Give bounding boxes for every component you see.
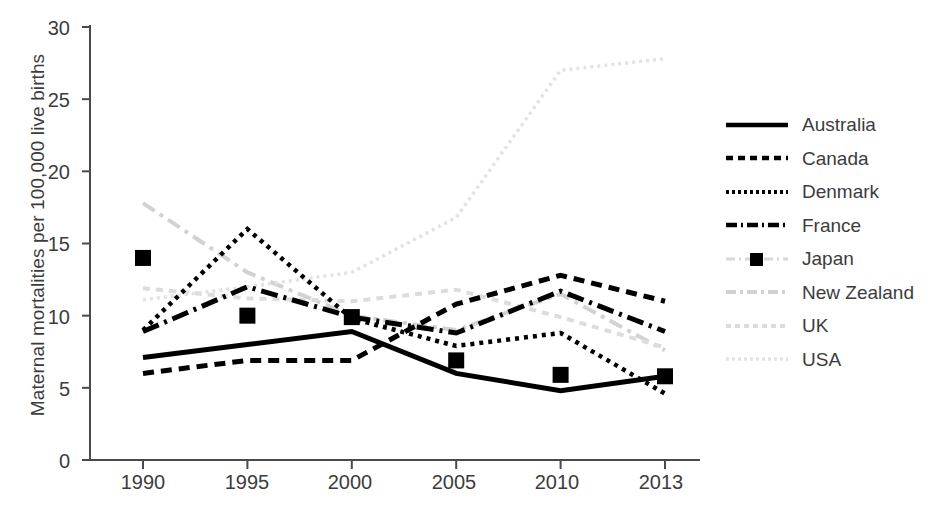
legend-item-denmark[interactable]: Denmark: [726, 175, 936, 209]
legend-swatch-france: [726, 218, 788, 232]
y-tick-marks: [82, 27, 90, 460]
series-layer: [135, 59, 673, 394]
legend-label-japan: Japan: [802, 249, 854, 268]
legend-label-usa: USA: [802, 350, 841, 369]
legend-swatch-japan: [726, 252, 788, 266]
legend-swatch-new-zealand: [726, 285, 788, 299]
series-new-zealand: [143, 203, 665, 350]
series-australia: [143, 332, 665, 391]
series-usa: [143, 59, 665, 300]
legend-item-usa[interactable]: USA: [726, 343, 936, 377]
legend-label-denmark: Denmark: [802, 182, 879, 201]
legend-label-uk: UK: [802, 316, 828, 335]
legend-item-france[interactable]: France: [726, 209, 936, 243]
legend-swatch-uk: [726, 319, 788, 333]
data-point-marker: [657, 368, 673, 384]
data-point-marker: [135, 250, 151, 266]
legend-swatch-denmark: [726, 185, 788, 199]
legend-item-uk[interactable]: UK: [726, 309, 936, 343]
legend-label-canada: Canada: [802, 149, 869, 168]
series-denmark: [143, 229, 665, 394]
data-point-marker: [239, 308, 255, 324]
series-uk: [143, 288, 665, 347]
legend-swatch-usa: [726, 352, 788, 366]
legend-swatch-australia: [726, 118, 788, 132]
x-tick-marks: [143, 460, 665, 469]
data-point-marker: [448, 352, 464, 368]
legend-item-new-zealand[interactable]: New Zealand: [726, 276, 936, 310]
legend-item-canada[interactable]: Canada: [726, 142, 936, 176]
chart-container: Maternal mortalities per 100,000 live bi…: [0, 0, 936, 511]
data-point-marker: [553, 367, 569, 383]
legend-item-japan[interactable]: Japan: [726, 242, 936, 276]
legend-label-australia: Australia: [802, 115, 876, 134]
data-point-marker: [344, 309, 360, 325]
legend: Australia Canada Denmark France: [726, 108, 936, 376]
legend-label-new-zealand: New Zealand: [802, 283, 914, 302]
legend-swatch-canada: [726, 151, 788, 165]
legend-item-australia[interactable]: Australia: [726, 108, 936, 142]
legend-label-france: France: [802, 216, 861, 235]
